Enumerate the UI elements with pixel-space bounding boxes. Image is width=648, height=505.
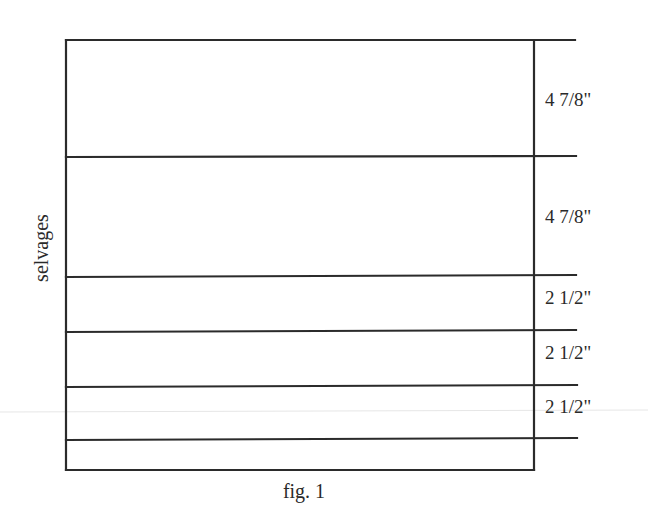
selvages-label: selvages (30, 214, 53, 282)
cut-line-5 (66, 438, 577, 440)
cut-line-3 (66, 330, 576, 332)
strip-1-measurement: 4 7/8" (545, 89, 591, 110)
strip-3-measurement: 2 1/2" (545, 287, 591, 308)
cutting-diagram: 4 7/8" 4 7/8" 2 1/2" 2 1/2" 2 1/2" selva… (0, 0, 648, 505)
cut-line-1 (66, 156, 576, 157)
strip-4-measurement: 2 1/2" (545, 342, 591, 363)
cut-line-2 (66, 275, 576, 277)
figure-caption: fig. 1 (283, 480, 325, 503)
cut-line-4 (66, 385, 577, 387)
strip-2-measurement: 4 7/8" (545, 206, 591, 227)
strip-5-measurement: 2 1/2" (545, 396, 591, 417)
